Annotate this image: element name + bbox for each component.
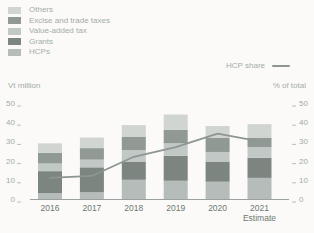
bar-segment-value-added-tax-2016 [38,163,62,171]
left-tick-label: 10 [6,176,15,185]
bar-segment-others-2017 [80,138,104,149]
x-axis-label: 2016 [41,203,60,213]
left-tick-label: 50 [6,99,15,108]
right-tick-label: 50 [299,99,308,108]
bar-segment-grants-2020 [206,162,230,182]
bar-segment-excise-and-trade-taxes-2016 [38,153,62,164]
x-axis-label: 2018 [124,203,143,213]
x-axis-label: 2017 [82,203,101,213]
chart-canvas: 0102030405001020304050201620172018201920… [0,0,314,233]
bar-segment-excise-and-trade-taxes-2018 [122,137,146,150]
bar-segment-hcps-2016 [38,193,62,199]
bar-segment-grants-2021 [248,158,272,178]
bar-segment-excise-and-trade-taxes-2020 [206,138,230,152]
bar-segment-grants-2016 [38,171,62,193]
chart-figure: Others Excise and trade taxes Value-adde… [0,0,314,233]
left-tick-label: 40 [6,118,15,127]
bar-segment-value-added-tax-2020 [206,152,230,162]
x-axis-label: 2019 [166,203,185,213]
right-tick-label: 0 [299,195,304,204]
bar-segment-others-2016 [38,143,62,153]
bar-segment-excise-and-trade-taxes-2017 [80,148,104,160]
bar-segment-value-added-tax-2021 [248,147,272,158]
bar-segment-hcps-2017 [80,192,104,199]
bar-segment-hcps-2020 [206,182,230,199]
bar-segment-hcps-2018 [122,180,146,199]
left-tick-label: 30 [6,137,15,146]
bar-segment-hcps-2019 [164,181,188,199]
bar-segment-excise-and-trade-taxes-2019 [164,130,188,143]
right-tick-label: 30 [299,137,308,146]
bar-segment-value-added-tax-2017 [80,160,104,168]
bar-segment-hcps-2021 [248,178,272,199]
bar-segment-others-2018 [122,125,146,137]
bar-segment-others-2019 [164,115,188,130]
bar-segment-grants-2017 [80,167,104,192]
bar-segment-grants-2018 [122,162,146,180]
x-axis-sublabel: Estimate [243,213,276,223]
right-tick-label: 40 [299,118,308,127]
right-tick-label: 10 [299,176,308,185]
left-tick-label: 20 [6,157,15,166]
x-axis-label: 2020 [208,203,227,213]
right-tick-label: 20 [299,157,308,166]
left-tick-label: 0 [11,195,16,204]
x-axis-label: 2021 [250,203,269,213]
bar-segment-others-2021 [248,124,272,137]
bar-segment-grants-2019 [164,156,188,181]
